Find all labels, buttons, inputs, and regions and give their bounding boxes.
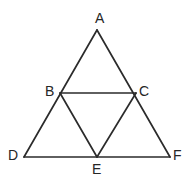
vertex-label-e: E [92,162,101,176]
vertex-label-d: D [8,148,18,162]
vertex-label-c: C [139,84,149,98]
geometry-figure: A B C D E F [0,0,192,183]
segment-ce [97,93,136,157]
figure-canvas [0,0,192,183]
vertex-label-f: F [173,148,182,162]
vertex-label-a: A [95,11,104,25]
vertex-label-b: B [45,84,54,98]
segment-be [60,93,97,157]
